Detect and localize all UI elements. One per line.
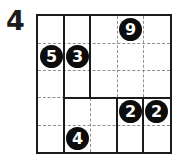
clue-value: 2 bbox=[151, 102, 162, 121]
clue-value: 9 bbox=[125, 20, 136, 39]
puzzle-page: 4 9 5 3 2 2 4 bbox=[0, 0, 174, 162]
cell-dotted-line-v2 bbox=[143, 16, 144, 97]
puzzle-number-label: 4 bbox=[6, 7, 24, 34]
region-border-line-v1 bbox=[63, 16, 65, 152]
region-border-line-v3 bbox=[116, 97, 118, 152]
clue-circle: 5 bbox=[40, 45, 63, 68]
clue-circle: 2 bbox=[145, 100, 168, 123]
clue-circle: 3 bbox=[66, 45, 89, 68]
clue-value: 3 bbox=[72, 47, 83, 66]
cell-dotted-line-h3 bbox=[38, 97, 65, 98]
cell-dotted-line-h4 bbox=[38, 125, 170, 126]
clue-value: 2 bbox=[125, 102, 136, 121]
clue-circle: 2 bbox=[119, 100, 142, 123]
region-border-line-h1 bbox=[63, 97, 170, 99]
puzzle-grid: 9 5 3 2 2 4 bbox=[36, 14, 172, 154]
cell-dotted-line-h1 bbox=[38, 43, 170, 44]
region-border-line-v4 bbox=[142, 97, 144, 152]
region-border-line-v2 bbox=[89, 16, 91, 98]
cell-dotted-line-v3 bbox=[90, 98, 91, 152]
clue-circle: 4 bbox=[66, 127, 89, 150]
clue-circle: 9 bbox=[119, 18, 142, 41]
clue-value: 4 bbox=[72, 129, 83, 148]
clue-value: 5 bbox=[46, 47, 57, 66]
cell-dotted-line-h2 bbox=[38, 70, 170, 71]
cell-dotted-line-v1 bbox=[117, 16, 118, 97]
